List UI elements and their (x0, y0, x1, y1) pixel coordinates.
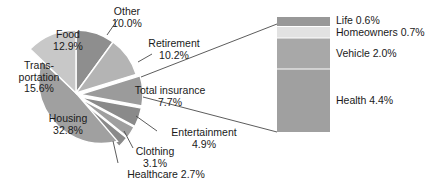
bar-segment-life[interactable] (277, 17, 330, 26)
pie-label-retirement: Retirement 10.2% (136, 38, 212, 61)
bar-label-health: Health 4.4% (336, 95, 393, 107)
pie-label-clothing: Clothing 3.1% (125, 146, 185, 169)
pie-label-transportation: Trans- portation 15.6% (6, 60, 72, 95)
pie-label-food: Food 12.9% (38, 29, 98, 52)
pie-label-total-insurance: Total insurance 7.7% (116, 85, 224, 108)
bar-segment-health[interactable] (277, 70, 330, 133)
pie-label-other: Other 10.0% (97, 6, 157, 29)
bar-segment-vehicle[interactable] (277, 39, 330, 69)
pie-label-housing: Housing 32.8% (33, 113, 103, 136)
bar-label-homeowners: Homeowners 0.7% (336, 27, 425, 39)
bar-label-vehicle: Vehicle 2.0% (336, 48, 397, 60)
pie-label-healthcare: Healthcare 2.7% (108, 169, 224, 181)
bar-segment-homeowners[interactable] (277, 27, 330, 38)
bar-label-life: Life 0.6% (336, 15, 380, 27)
insurance-stacked-bar (277, 17, 330, 132)
